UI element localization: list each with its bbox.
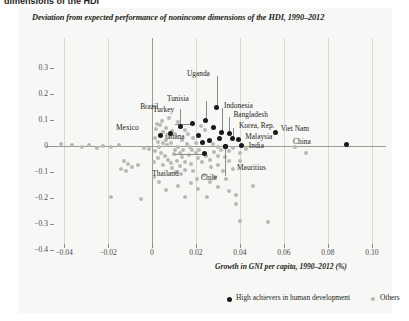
data-point-label: Mauritius — [237, 164, 266, 172]
data-point-other — [234, 202, 238, 206]
data-point-other — [216, 185, 220, 189]
data-point-other — [117, 143, 121, 147]
data-point-other — [199, 124, 203, 128]
data-point-other — [157, 180, 161, 184]
data-point-label: Viet Nam — [281, 125, 310, 133]
data-point-other — [212, 150, 216, 154]
label-leader-line — [225, 146, 226, 176]
data-point-other — [208, 158, 212, 162]
label-leader-line — [222, 108, 223, 132]
data-point-malaysia — [236, 137, 241, 142]
x-axis-tick-label: 0.10 — [352, 249, 392, 257]
data-point-other — [130, 165, 134, 169]
x-axis-label: Growth in GNI per capita, 1990–2012 (%) — [215, 262, 347, 271]
data-point-other — [109, 195, 113, 199]
data-point-other — [181, 148, 185, 152]
data-point-other — [196, 187, 200, 191]
chart-screenshot: dimensions of the HDI Deviation from exp… — [0, 0, 409, 321]
data-point-other — [186, 132, 190, 136]
data-point-korea-rep — [230, 136, 235, 141]
data-point-other — [197, 148, 201, 152]
data-point-other — [167, 116, 171, 120]
data-point-china — [344, 142, 349, 147]
data-point-label: Mexico — [116, 124, 139, 132]
data-point-other — [188, 145, 192, 149]
data-point-other — [189, 181, 193, 185]
data-point-other — [196, 156, 200, 160]
data-point-other — [122, 159, 126, 163]
data-point-other — [154, 127, 158, 131]
data-point-turkey — [190, 121, 195, 126]
data-point-high-achiever — [207, 138, 212, 143]
gridline-vertical — [284, 38, 285, 244]
data-point-label: Ghana — [165, 133, 184, 141]
data-point-other — [175, 159, 179, 163]
data-point-other — [119, 167, 123, 171]
data-point-high-achiever — [200, 140, 205, 145]
data-point-other — [179, 172, 183, 176]
y-axis-tick-mark — [50, 172, 54, 173]
data-point-other — [176, 145, 180, 149]
data-point-tunisia — [203, 118, 208, 123]
x-axis-tick-label: 0.06 — [264, 249, 304, 257]
data-point-other — [205, 195, 209, 199]
data-point-other — [227, 189, 231, 193]
data-point-other — [180, 155, 184, 159]
x-axis-tick-label: 0.08 — [308, 249, 348, 257]
data-point-label: Korea, Rep. — [239, 122, 275, 130]
data-point-uganda — [214, 105, 219, 110]
data-point-other — [194, 141, 198, 145]
data-point-other — [153, 149, 157, 153]
data-point-other — [178, 164, 182, 168]
data-point-other — [156, 156, 160, 160]
y-axis-tick-label: −0.3 — [22, 220, 48, 228]
data-point-other — [216, 163, 220, 167]
data-point-ghana — [158, 133, 163, 138]
data-point-high-achiever — [196, 133, 201, 138]
gridline-vertical — [328, 38, 329, 244]
data-point-other — [203, 128, 207, 132]
data-point-other — [189, 162, 193, 166]
data-point-other — [238, 219, 242, 223]
gridline-vertical — [108, 38, 109, 244]
data-point-label: China — [293, 138, 311, 146]
data-point-other — [183, 160, 187, 164]
data-point-other — [191, 136, 195, 140]
data-point-other — [139, 197, 143, 201]
data-point-other — [234, 193, 238, 197]
legend-label-high-achievers: High achievers in human development — [236, 294, 350, 302]
y-axis-tick-label: −0.1 — [22, 168, 48, 176]
label-leader-line — [217, 76, 218, 107]
y-axis-tick-mark — [50, 224, 54, 225]
data-point-other — [136, 163, 140, 167]
scatter-plot-area: 0.30.20.10−0.1−0.2−0.3−0.4−0.04−0.0200.0… — [0, 0, 409, 321]
x-axis-tick-label: 0.02 — [176, 249, 216, 257]
data-point-other — [142, 146, 146, 150]
data-point-other — [200, 160, 204, 164]
data-point-high-achiever — [217, 136, 222, 141]
y-axis-tick-mark — [50, 120, 54, 121]
data-point-label: Tunisia — [167, 95, 189, 103]
data-point-other — [183, 168, 187, 172]
data-point-other — [160, 119, 164, 123]
data-point-other — [227, 159, 231, 163]
data-point-other — [231, 146, 235, 150]
data-point-other — [251, 184, 255, 188]
data-point-other — [244, 147, 248, 151]
data-point-label: Malaysia — [245, 133, 272, 141]
data-point-chile — [223, 144, 228, 149]
data-point-other — [216, 154, 220, 158]
data-point-other — [80, 145, 84, 149]
data-point-other — [266, 220, 270, 224]
data-point-other — [169, 141, 173, 145]
y-axis-tick-label: 0.3 — [22, 64, 48, 72]
data-point-other — [238, 151, 242, 155]
data-point-other — [176, 184, 180, 188]
legend-marker-others — [371, 297, 375, 301]
y-axis-tick-mark — [50, 146, 54, 147]
label-leader-line — [174, 154, 204, 155]
y-axis-tick-mark — [50, 68, 54, 69]
y-axis-line — [152, 38, 153, 244]
data-point-label: Chile — [201, 174, 217, 182]
y-axis-tick-mark — [50, 94, 54, 95]
